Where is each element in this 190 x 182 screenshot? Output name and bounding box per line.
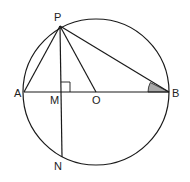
geometry-diagram: P A M O B N	[0, 0, 190, 182]
label-p: P	[54, 11, 61, 23]
label-a: A	[14, 87, 22, 99]
label-b: B	[172, 87, 179, 99]
right-angle-marker-icon	[61, 82, 70, 92]
segment-pb	[60, 26, 169, 92]
label-n: N	[54, 160, 62, 172]
label-m: M	[50, 94, 59, 106]
segment-pa	[24, 26, 60, 92]
label-o: O	[92, 94, 101, 106]
